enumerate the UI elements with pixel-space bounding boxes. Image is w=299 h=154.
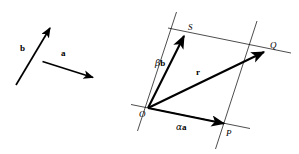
label-a-symbol: a — [182, 122, 187, 132]
reference-vectors — [16, 28, 93, 85]
construction-lines — [131, 12, 291, 149]
principal-vectors — [148, 36, 264, 124]
vector-diagram-figure: b a βb αa r O P Q S — [0, 0, 299, 154]
label-vector-a: a — [61, 49, 66, 58]
vector-r-arrow — [148, 52, 264, 108]
label-point-q: Q — [270, 41, 277, 50]
label-scaled-vector-alpha-a: αa — [176, 123, 187, 132]
label-b-symbol: b — [160, 58, 165, 68]
vector-beta-b-arrow — [148, 36, 184, 108]
construction-line-through-P-parallel-b — [216, 21, 258, 149]
reference-vector-a-arrow — [43, 62, 94, 78]
label-scaled-vector-beta-b: βb — [155, 59, 165, 68]
label-point-s: S — [188, 23, 193, 32]
label-point-p: P — [226, 129, 232, 138]
label-point-o: O — [139, 110, 146, 119]
reference-vector-b-arrow — [16, 28, 50, 85]
label-vector-b: b — [20, 44, 25, 53]
label-vector-r: r — [196, 68, 200, 77]
diagram-canvas — [0, 0, 299, 154]
